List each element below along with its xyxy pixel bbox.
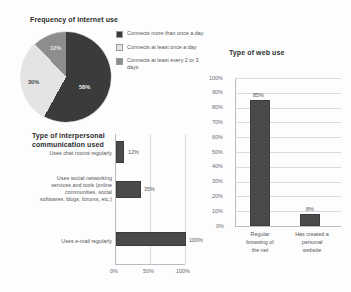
hbar-value-label-0: 12% (128, 149, 139, 155)
vbar-ytick-5: 50% (212, 149, 223, 155)
vbar-category-label-1-line-1: personal (285, 239, 339, 246)
hbar-bar-2 (116, 232, 186, 246)
vbar-ytick-9: 10% (212, 208, 223, 214)
hbar-category-label-1-line-1: services and tools (online (6, 182, 112, 189)
hbar-xtick-2: 100% (176, 268, 190, 274)
vbar-bar-1 (300, 214, 320, 226)
legend-label-1: Connects at least once a day (127, 44, 197, 51)
hbar-category-label-1-line-0: Uses social networking (6, 175, 112, 182)
legend-label-2: Connects at least every 2 or 3 days (127, 57, 204, 71)
vbar-ytick-8: 20% (212, 193, 223, 199)
legend-swatch-icon-1 (116, 44, 123, 51)
vbar-bar-0 (250, 100, 270, 226)
pie-slice-label-1: 30% (28, 79, 39, 85)
legend-label-0: Connects more than once a day (127, 30, 203, 37)
interpersonal-communication-bar-chart: Type of interpersonal communication used… (0, 128, 205, 292)
hbar-category-label-2: Uses e-mail regularly (10, 238, 112, 245)
pie-chart-title: Frequency of internet use (30, 15, 118, 24)
legend-swatch-icon-2 (116, 58, 123, 65)
hbar-category-label-1-line-2: communities, social (6, 189, 112, 196)
vbar-category-label-1-line-0: Has created a (285, 231, 339, 238)
pie-chart-legend: Connects more than once a day Connects a… (116, 30, 204, 77)
vbar-category-label-1-line-2: website (285, 247, 339, 254)
hbar-bar-0 (116, 141, 124, 163)
hbar-xtick-0: 0% (110, 268, 118, 274)
hbar-category-label-1-line-3: softwares, blogs, forums, etc.) (6, 196, 112, 203)
vbar-x-axis (235, 226, 341, 227)
legend-item-1: Connects at least once a day (116, 44, 204, 52)
legend-item-0: Connects more than once a day (116, 30, 204, 38)
vbar-category-label-0-line-0: Regular (235, 231, 285, 238)
vbar-ytick-1: 90% (212, 89, 223, 95)
vbar-category-label-0-line-2: the net (235, 247, 285, 254)
hbar-bar-1 (116, 181, 141, 198)
pie-slice-label-0: 58% (79, 84, 90, 90)
vbar-value-label-0: 85% (253, 92, 264, 98)
vbar-ytick-0: 100% (209, 75, 223, 81)
vbar-ytick-3: 70% (212, 119, 223, 125)
pie-chart-graphic: 58% 30% 12% (21, 32, 111, 122)
legend-item-2: Connects at least every 2 or 3 days (116, 57, 204, 71)
vbar-category-label-0-line-1: browsing of (235, 239, 285, 246)
hbar-x-axis (115, 264, 185, 265)
vbar-ytick-4: 60% (212, 134, 223, 140)
hbar-category-label-0: Uses chat rooms regularly (10, 150, 112, 157)
hbar-value-label-2: 100% (189, 237, 203, 243)
vbar-ytick-10: 0% (216, 223, 224, 229)
hbar-xtick-1: 50% (143, 268, 154, 274)
pie-slices (21, 32, 111, 122)
vbar-ytick-6: 40% (212, 163, 223, 169)
hbar-chart-title-line-1: Type of interpersonal (32, 131, 132, 140)
vbar-gridline-90 (235, 93, 341, 94)
pie-slice-label-2: 12% (50, 45, 61, 51)
figure-container: Frequency of internet use 58% 30% 12% Co… (0, 0, 351, 292)
vbar-chart-title: Type of web use (229, 48, 284, 57)
vbar-gridline-100 (235, 78, 341, 79)
legend-swatch-icon-0 (116, 31, 123, 38)
vbar-ytick-2: 80% (212, 104, 223, 110)
web-use-bar-chart: Type of web use 100% 90% 80% 70% 60% 50%… (205, 38, 351, 292)
hbar-value-label-1: 35% (144, 186, 155, 192)
vbar-value-label-1: 8% (306, 206, 314, 212)
vbar-ytick-7: 30% (212, 178, 223, 184)
